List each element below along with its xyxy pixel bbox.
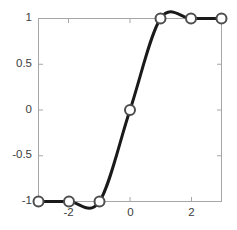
x-tick-label-neg-2: -2 xyxy=(54,207,83,219)
data-point-marker xyxy=(64,197,74,207)
data-point-marker xyxy=(217,14,227,24)
y-tick-label-1: 1 xyxy=(2,12,32,24)
data-point-marker xyxy=(34,197,44,207)
data-point-marker xyxy=(125,105,135,115)
data-point-marker xyxy=(186,14,196,24)
x-tick-label-0: 0 xyxy=(116,207,145,219)
plot-area xyxy=(0,0,237,230)
data-point-marker xyxy=(95,197,105,207)
figure-canvas: 1 0.5 0 -0.5 -1 -2 0 2 xyxy=(0,0,237,230)
x-tick-label-2: 2 xyxy=(177,207,206,219)
y-tick-label-0-5: 0.5 xyxy=(2,58,32,70)
y-tick-label-neg-0-5: -0.5 xyxy=(2,149,32,161)
y-tick-label-neg-1: -1 xyxy=(2,195,32,207)
data-point-marker xyxy=(156,14,166,24)
y-tick-label-0: 0 xyxy=(2,104,32,116)
